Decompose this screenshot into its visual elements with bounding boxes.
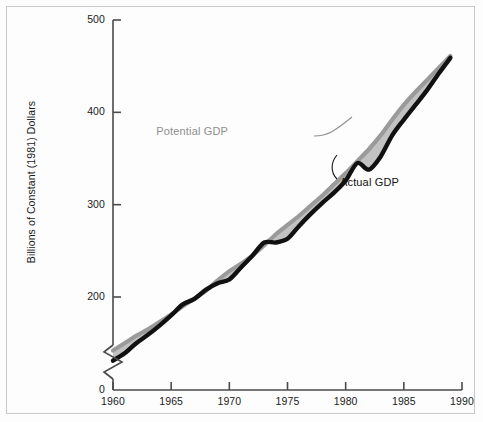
- y-tick-label: 400: [60, 105, 105, 117]
- y-tick-label: 300: [60, 198, 105, 210]
- x-tick-label: 1985: [380, 395, 428, 407]
- x-tick-label: 1975: [264, 395, 312, 407]
- actual-gdp-annotation: Actual GDP: [340, 176, 399, 188]
- y-tick-label: 200: [60, 290, 105, 302]
- x-tick-label: 1960: [89, 395, 137, 407]
- y-tick-label: 0: [60, 383, 105, 395]
- output-gap-shading: [113, 56, 450, 361]
- potential-gdp-leader-line: [314, 117, 352, 136]
- x-axis-ticks: [113, 382, 462, 390]
- actual-gdp-line: [113, 58, 450, 361]
- gdp-chart-figure: 0200300400500 19601965197019751980198519…: [0, 0, 483, 422]
- potential-gdp-annotation: Potential GDP: [156, 125, 228, 137]
- actual-gdp-leader-line: [332, 155, 337, 179]
- x-tick-label: 1980: [322, 395, 370, 407]
- chart-axes: [104, 20, 462, 390]
- y-tick-label: 500: [60, 13, 105, 25]
- x-tick-label: 1965: [147, 395, 195, 407]
- x-tick-label: 1990: [438, 395, 483, 407]
- x-tick-label: 1970: [205, 395, 253, 407]
- potential-gdp-line: [113, 56, 450, 351]
- y-axis-title: Billions of Constant (1981) Dollars: [25, 82, 37, 282]
- y-axis-ticks: [113, 20, 121, 297]
- chart-plot-area: [0, 0, 483, 422]
